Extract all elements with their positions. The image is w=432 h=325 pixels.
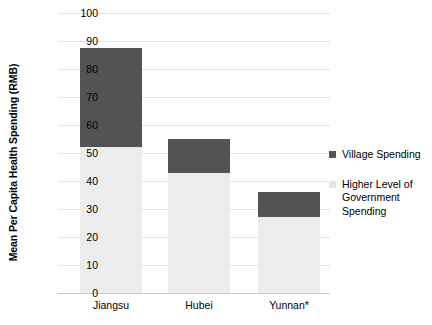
y-tick-label-30: 30 (58, 203, 98, 215)
legend-swatch-village-icon (329, 151, 336, 158)
y-tick-label-90: 90 (58, 35, 98, 47)
chart-legend: Village Spending Higher Level ofGovernme… (329, 148, 432, 234)
bar-segment[interactable] (258, 217, 320, 293)
bar-group-hubei[interactable] (168, 13, 230, 293)
y-tick-label-20: 20 (58, 231, 98, 243)
y-axis-title: Mean Per Capita Health Spending (RMB) (0, 0, 26, 325)
bar-segment[interactable] (258, 192, 320, 217)
y-tick-label-70: 70 (58, 91, 98, 103)
y-tick-label-40: 40 (58, 175, 98, 187)
bar-segment[interactable] (80, 147, 142, 293)
y-tick-label-80: 80 (58, 63, 98, 75)
y-tick-label-50: 50 (58, 147, 98, 159)
legend-swatch-higher-level-icon (329, 181, 336, 188)
stacked-bar-chart: Mean Per Capita Health Spending (RMB) 01… (0, 0, 432, 325)
y-tick-label-0: 0 (58, 287, 98, 299)
legend-item-higher-level[interactable]: Higher Level ofGovernmentSpending (329, 178, 432, 219)
x-tick-label-yunnan: Yunnan* (234, 299, 344, 311)
legend-label-village: Village Spending (342, 148, 421, 162)
bar-segment[interactable] (168, 173, 230, 293)
plot-area (58, 13, 330, 293)
legend-label-higher-level: Higher Level ofGovernmentSpending (342, 178, 413, 219)
legend-item-village[interactable]: Village Spending (329, 148, 432, 162)
y-tick-label-60: 60 (58, 119, 98, 131)
y-tick-label-100: 100 (58, 7, 98, 19)
bar-group-yunnan[interactable] (258, 13, 320, 293)
gridline-0 (58, 293, 330, 294)
y-tick-label-10: 10 (58, 259, 98, 271)
bar-segment[interactable] (168, 139, 230, 173)
